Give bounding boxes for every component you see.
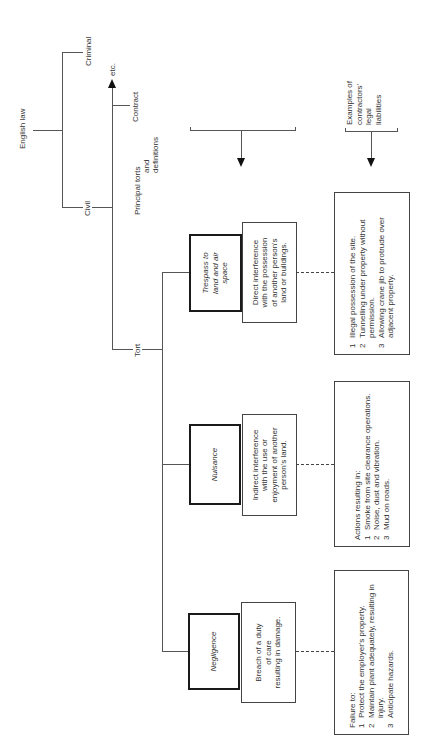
examples-intro: Actions resulting in: <box>353 471 363 540</box>
label-criminal: Criminal <box>84 36 93 67</box>
example-item: 1Protect the employer's property. <box>357 605 367 728</box>
label-etc: etc. <box>108 62 117 77</box>
tort-diagram: English law Criminal Civil etc. Contract… <box>0 0 433 745</box>
example-item: 2Maintain plant adequately, resulting in… <box>367 577 386 728</box>
negligence-stem <box>162 651 188 652</box>
example-item: 1Smoke from site clearance operations. <box>363 393 373 540</box>
tort-box-trespass: Trespass to land and air space <box>189 234 242 312</box>
principal-arrow-icon <box>237 158 245 167</box>
label-tort: Tort <box>133 343 142 358</box>
example-item: 1Illegal possession of the site. <box>348 236 358 348</box>
civil-spine <box>112 86 113 350</box>
example-item: 2Tunnelling under property without permi… <box>358 199 377 348</box>
examples-box-trespass: 1Illegal possession of the site. 2Tunnel… <box>334 192 410 355</box>
principal-bracket <box>190 130 296 131</box>
principal-arrow-line <box>241 131 242 160</box>
examples-arrow-line <box>371 132 372 160</box>
header-principal-torts: Principal torts <box>133 95 143 215</box>
etc-arrow-icon <box>108 79 116 88</box>
principal-bracket-cap-bottom <box>295 127 296 131</box>
trespass-stem <box>162 272 189 273</box>
example-item: 3Mud on roads. <box>382 479 392 540</box>
examples-intro: Failure to: <box>348 692 358 728</box>
examples-box-negligence: Failure to: 1Protect the employer's prop… <box>334 570 409 735</box>
label-civil: Civil <box>83 200 92 217</box>
criminal-stem <box>62 52 83 53</box>
examples-bracket-cap-top <box>345 128 346 132</box>
root-stem <box>33 130 62 131</box>
example-item: 3Anticipate hazards. <box>386 650 396 728</box>
examples-bracket-cap-bottom <box>397 128 398 132</box>
examples-box-nuisance: Actions resulting in: 1Smoke from site c… <box>334 381 410 547</box>
contract-stem <box>112 105 130 106</box>
principal-bracket-cap-top <box>190 127 191 131</box>
example-item: 3Allowing crane jib to protrude over adj… <box>377 199 396 348</box>
tort-spine <box>162 272 163 652</box>
definition-box-nuisance: Indirect interference with the use or en… <box>242 414 297 516</box>
examples-arrow-icon <box>367 158 375 167</box>
connector-trespass <box>296 271 334 273</box>
nuisance-stem <box>162 464 189 465</box>
definition-box-negligence: Breach of a duty of care resulting in da… <box>241 602 296 703</box>
header-examples: Examples of contractors' legal liabiliti… <box>345 81 383 125</box>
header-principal-definitions: definitions <box>151 137 161 173</box>
tort-box-nuisance: Nuisance <box>189 424 241 505</box>
tort-box-negligence: Negligence <box>188 613 240 690</box>
law-bracket <box>62 52 63 208</box>
label-english-law: English law <box>18 108 27 150</box>
definition-box-trespass: Direct interference with the possession … <box>242 222 297 323</box>
example-item: 2Noise, dust and vibration. <box>372 440 382 540</box>
connector-nuisance <box>296 463 334 465</box>
connector-negligence <box>296 650 334 652</box>
